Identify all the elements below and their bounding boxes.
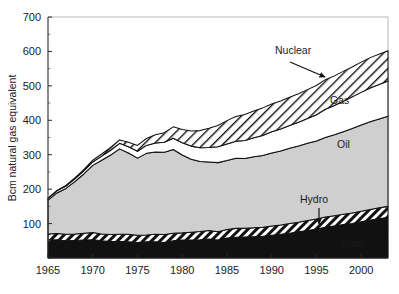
x-tick-label-1965: 1965 [36, 264, 60, 276]
y-tick-label-500: 500 [23, 80, 41, 92]
hydro-label: Hydro [300, 193, 328, 205]
x-tick-label-2000: 2000 [349, 264, 373, 276]
x-tick-label-1970: 1970 [80, 264, 104, 276]
chart-figure: 100200300400500600700 196519701975198019… [0, 0, 399, 294]
y-tick-label-200: 200 [23, 183, 41, 195]
stacked-area-chart: 100200300400500600700 196519701975198019… [0, 0, 399, 294]
x-tick-label-1995: 1995 [304, 264, 328, 276]
y-tick-label-400: 400 [23, 114, 41, 126]
oil-label: Oil [337, 138, 350, 150]
y-tick-label-600: 600 [23, 45, 41, 57]
x-tick-label-1980: 1980 [170, 264, 194, 276]
y-tick-label-100: 100 [23, 218, 41, 230]
nuclear-label: Nuclear [275, 44, 312, 56]
y-axis-title: Bcm natural gas equivalent [6, 75, 18, 202]
coal-label: Coal [341, 237, 363, 249]
y-tick-label-700: 700 [23, 11, 41, 23]
x-tick-label-1985: 1985 [215, 264, 239, 276]
x-tick-label-1990: 1990 [259, 264, 283, 276]
gas-label: Gas [330, 94, 349, 106]
x-tick-label-1975: 1975 [125, 264, 149, 276]
y-tick-label-300: 300 [23, 149, 41, 161]
